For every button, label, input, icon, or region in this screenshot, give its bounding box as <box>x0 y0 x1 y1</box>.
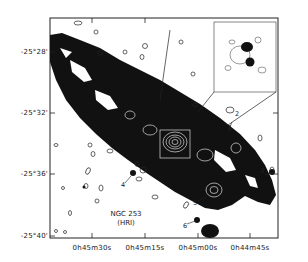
x-tick-label: 0h44m45s <box>225 244 275 252</box>
y-tick-label: -25°40' <box>2 232 48 240</box>
ngc253-xray-figure: -25°28' -25°32' -25°36' -25°40' 0h45m30s… <box>0 0 308 262</box>
source-label-3: 3 <box>260 167 264 175</box>
x-tick-label: 0h45m30s <box>67 244 117 252</box>
instrument-label: (HRI) <box>96 219 156 228</box>
y-tick-label: -25°28' <box>2 48 48 56</box>
source-label-5: 5 <box>193 199 197 207</box>
y-tick-label: -25°36' <box>2 170 48 178</box>
source-label-4: 4 <box>121 181 125 189</box>
x-tick-label: 0h45m00s <box>173 244 223 252</box>
source-label-2: 2 <box>235 110 239 118</box>
object-name-label: NGC 253 <box>96 210 156 219</box>
source-label-6: 6 <box>183 222 187 230</box>
source-label-1: 1 <box>228 124 232 132</box>
x-tick-label: 0h45m15s <box>120 244 170 252</box>
y-tick-label: -25°32' <box>2 109 48 117</box>
